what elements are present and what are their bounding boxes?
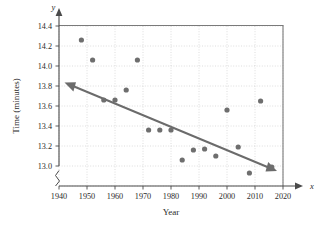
x-tick-label: 1980 bbox=[163, 192, 179, 201]
y-tick-label: 13.8 bbox=[38, 82, 52, 91]
x-tick-label: 1970 bbox=[135, 192, 151, 201]
scatter-plot: 14.4 14.2 14.0 13.8 13.6 13.4 13.2 13.0 … bbox=[0, 0, 323, 230]
data-point bbox=[90, 57, 95, 62]
y-tick-label: 14.0 bbox=[38, 62, 52, 71]
data-point bbox=[146, 127, 151, 132]
y-tick-label: 13.2 bbox=[38, 142, 52, 151]
trend-line-group bbox=[65, 82, 278, 171]
y-tick-labels: 14.4 14.2 14.0 13.8 13.6 13.4 13.2 13.0 bbox=[38, 22, 52, 171]
y-axis-break-icon bbox=[56, 171, 60, 187]
data-point bbox=[79, 37, 84, 42]
x-axis-title: Year bbox=[163, 207, 180, 217]
data-point bbox=[247, 170, 252, 175]
x-tick-labels: 1940 1950 1960 1970 1980 1990 2000 2010 … bbox=[51, 192, 291, 201]
data-point bbox=[124, 87, 129, 92]
data-point bbox=[202, 146, 207, 151]
x-tick-label: 1950 bbox=[79, 192, 95, 201]
x-tick-label: 1960 bbox=[107, 192, 123, 201]
data-point bbox=[180, 157, 185, 162]
data-point bbox=[258, 98, 263, 103]
data-point bbox=[191, 147, 196, 152]
x-axis bbox=[59, 183, 303, 190]
data-points bbox=[79, 37, 275, 175]
chart-container: 14.4 14.2 14.0 13.8 13.6 13.4 13.2 13.0 … bbox=[0, 0, 323, 230]
y-tick-label: 14.4 bbox=[38, 22, 52, 31]
data-point bbox=[269, 164, 274, 169]
data-point bbox=[224, 107, 229, 112]
x-tick-label: 2020 bbox=[275, 192, 291, 201]
y-tick-label: 13.4 bbox=[38, 122, 52, 131]
data-point bbox=[213, 153, 218, 158]
x-tick-label: 2000 bbox=[219, 192, 235, 201]
x-tick-label: 1990 bbox=[191, 192, 207, 201]
data-point bbox=[168, 127, 173, 132]
x-axis-variable-label: x bbox=[309, 181, 314, 191]
y-tick-label: 13.6 bbox=[38, 102, 52, 111]
data-point bbox=[157, 127, 162, 132]
data-point bbox=[236, 144, 241, 149]
data-point bbox=[101, 97, 106, 102]
y-tick-label: 14.2 bbox=[38, 42, 52, 51]
y-axis bbox=[56, 8, 63, 166]
y-tick-label: 13.0 bbox=[38, 162, 52, 171]
x-tick-label: 2010 bbox=[247, 192, 263, 201]
trend-line-left-arrowhead bbox=[65, 82, 77, 91]
y-axis-variable-label: y bbox=[51, 2, 56, 12]
data-point bbox=[112, 97, 117, 102]
data-point bbox=[135, 57, 140, 62]
y-axis-title: Time (minutes) bbox=[11, 78, 21, 133]
x-tick-label: 1940 bbox=[51, 192, 67, 201]
